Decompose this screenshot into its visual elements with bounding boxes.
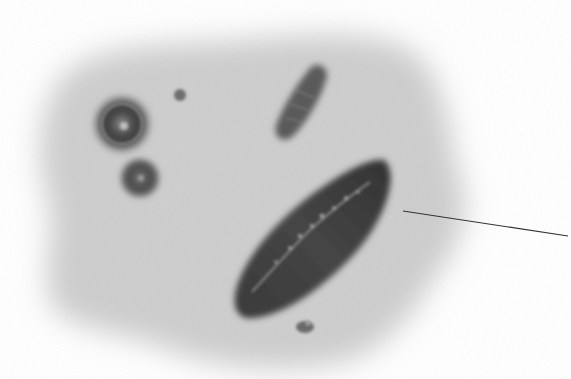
ringed-round-particle xyxy=(92,94,152,154)
micrograph-figure xyxy=(0,0,571,379)
tiny-dot xyxy=(174,89,186,101)
micrograph-canvas xyxy=(0,0,571,379)
small-round-particle xyxy=(120,158,160,198)
specimen-field xyxy=(0,0,571,379)
